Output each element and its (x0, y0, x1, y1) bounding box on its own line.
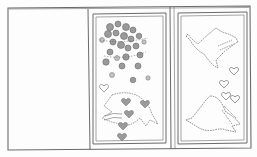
heart-icon (219, 68, 239, 103)
lower-dove (186, 96, 240, 132)
right-doves-illustration (186, 28, 240, 132)
right-panel-frame (178, 12, 247, 144)
heart-icon (117, 99, 149, 141)
upper-dove (186, 28, 238, 68)
middle-dove-illustration (99, 21, 158, 141)
sketch-canvas (0, 0, 257, 157)
card-sketch (0, 0, 257, 157)
